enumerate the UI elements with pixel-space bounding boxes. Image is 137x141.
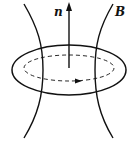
normal-label: n <box>54 6 63 18</box>
current-arrow-icon <box>75 79 82 84</box>
field-line-right <box>95 4 113 138</box>
field-label: B <box>115 6 125 18</box>
diagram-canvas: n B <box>0 0 137 141</box>
field-line-left <box>24 4 43 138</box>
diagram-svg <box>0 0 137 141</box>
normal-arrow-icon <box>66 2 72 11</box>
